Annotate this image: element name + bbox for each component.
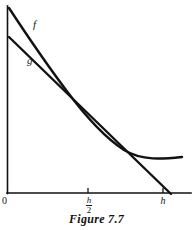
curve-label-g: g bbox=[27, 55, 33, 66]
x-axis-label-origin: 0 bbox=[2, 196, 7, 206]
curve-f bbox=[9, 8, 182, 159]
x-axis-label-h: h bbox=[157, 196, 169, 206]
figure-container: f g 0 h 2 h Figure 7.7 bbox=[0, 0, 193, 230]
curve-label-f: f bbox=[33, 19, 36, 30]
figure-caption: Figure 7.7 bbox=[0, 212, 193, 227]
curve-g bbox=[9, 37, 171, 194]
